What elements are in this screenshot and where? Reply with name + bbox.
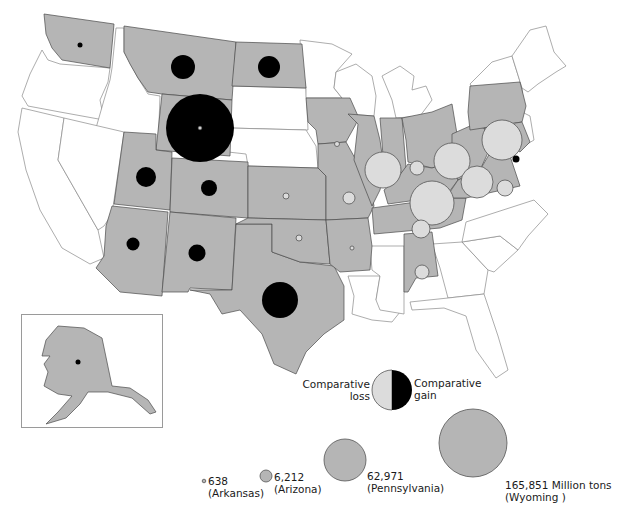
gain-label-line1: Comparative [414,377,482,389]
symbol-iowa [335,142,340,147]
loss-label-line2: loss [300,390,370,402]
state-michigan [382,66,432,118]
symbol-oklahoma [296,235,302,241]
comparison-legend-symbol [372,370,412,410]
legend-size-4-state: (Wyoming ) [505,491,612,503]
legend-size-2-value: 6,212 [274,471,322,483]
symbol-missouri [343,192,355,204]
size-legend-symbols [202,409,507,483]
legend-size-1: 638 (Arkansas) [208,475,264,499]
state-washington [44,14,114,68]
legend-size-4-value: 165,851 Million tons [505,479,612,491]
gain-half [392,370,412,410]
state-south-dakota [230,86,308,130]
symbol-maryland [513,156,520,163]
symbol-arizona [127,238,140,251]
legend-symbol-165851 [439,409,507,477]
symbol-kentucky [410,181,454,225]
symbol-utah [136,167,156,187]
state-iowa [306,98,358,144]
symbol-tennessee [412,220,430,238]
symbol-alabama [415,265,429,279]
legend-gain-label: Comparative gain [414,377,482,401]
gain-label-line2: gain [414,389,482,401]
legend-symbol-62971 [324,439,366,481]
symbol-indiana [410,161,424,175]
symbol-new-mexico [189,245,206,262]
legend-size-3: 62,971 (Pennsylvania) [367,470,444,494]
symbol-washington [78,43,83,48]
legend-symbol-638 [202,479,206,483]
state-alabama [404,232,438,292]
symbol-pennsylvania [482,120,522,160]
wyoming-center-marker [198,126,202,130]
legend-size-2-state: (Arizona) [274,483,322,495]
symbol-kansas [283,193,289,199]
loss-label-line1: Comparative [300,378,370,390]
state-florida [410,294,508,378]
legend-size-1-value: 638 [208,475,264,487]
symbol-texas [262,282,298,318]
symbol-north-dakota [258,56,280,78]
legend-size-2: 6,212 (Arizona) [274,471,322,495]
legend-size-3-value: 62,971 [367,470,444,482]
legend-size-4: 165,851 Million tons (Wyoming ) [505,479,612,503]
state-arkansas [326,218,372,272]
alaska-inset-frame [21,314,163,428]
symbol-montana [171,55,195,79]
legend-size-1-state: (Arkansas) [208,487,264,499]
symbol-west-virginia [461,166,493,198]
symbol-illinois [365,152,401,188]
symbol-colorado [201,180,217,196]
legend-loss-label: Comparative loss [300,378,370,402]
legend-size-3-state: (Pennsylvania) [367,482,444,494]
loss-half [372,370,392,410]
us-coal-map [0,0,618,515]
symbol-virginia [497,180,513,196]
symbol-arkansas [350,246,354,250]
